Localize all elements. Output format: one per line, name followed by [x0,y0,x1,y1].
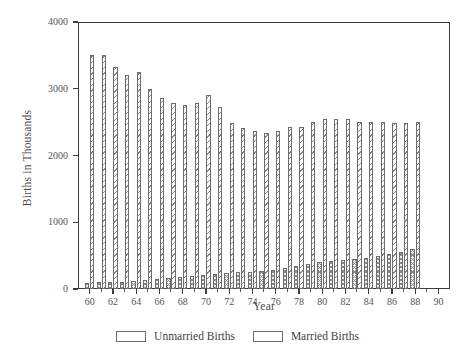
legend-swatch [116,331,146,342]
bar-unmarried-68 [178,277,182,289]
y-tick-mark [73,88,78,89]
x-tick-mark [182,289,183,294]
bar-unmarried-84 [364,258,368,289]
bar-married-86 [392,123,396,289]
bar-unmarried-78 [294,266,298,289]
x-tick-minor-mark [310,289,311,292]
bar-unmarried-79 [306,264,310,289]
x-axis-title: Year [78,300,450,312]
bar-married-62 [113,67,117,289]
x-tick-mark [136,289,137,294]
bar-married-75 [264,133,268,289]
x-tick-minor-mark [263,289,264,292]
bar-unmarried-61 [97,282,101,289]
x-tick-minor-mark [240,289,241,292]
bar-unmarried-62 [108,282,112,289]
bar-married-67 [171,103,175,289]
bar-unmarried-82 [341,260,345,289]
bar-married-72 [230,123,234,289]
x-tick-mark [322,289,323,294]
bar-married-88 [416,122,420,289]
bar-married-76 [276,131,280,289]
bar-married-79 [311,122,315,289]
x-tick-mark [415,289,416,294]
x-tick-mark [345,289,346,294]
bar-married-84 [369,122,373,289]
legend-label: Married Births [291,330,359,342]
x-tick-minor-mark [356,289,357,292]
x-tick-minor-mark [426,289,427,292]
bar-married-78 [299,127,303,289]
x-tick-minor-mark [217,289,218,292]
y-tick-mark [73,155,78,156]
bar-unmarried-71 [213,274,217,289]
bar-married-65 [148,89,152,289]
y-tick-label: 4000 [8,16,68,27]
bar-married-60 [90,55,94,289]
bar-married-71 [218,107,222,289]
bar-unmarried-81 [329,261,333,289]
bar-unmarried-60 [85,283,89,289]
bar-unmarried-76 [271,270,275,289]
bar-unmarried-88 [410,249,414,289]
x-tick-mark [252,289,253,294]
x-tick-minor-mark [170,289,171,292]
bar-married-77 [288,127,292,289]
bar-married-69 [195,103,199,289]
x-tick-mark [368,289,369,294]
x-tick-mark [438,289,439,294]
x-tick-minor-mark [147,289,148,292]
x-tick-minor-mark [333,289,334,292]
legend-item-married[interactable]: Married Births [253,330,359,342]
bar-married-66 [160,98,164,289]
x-tick-minor-mark [194,289,195,292]
bar-married-68 [183,105,187,289]
x-tick-mark [205,289,206,294]
legend-label: Unmarried Births [154,330,235,342]
bar-unmarried-72 [224,273,228,289]
chart-legend: Unmarried BirthsMarried Births [0,330,475,342]
y-tick-label: 3000 [8,83,68,94]
bar-unmarried-69 [190,276,194,289]
bar-unmarried-80 [317,262,321,289]
bar-unmarried-63 [120,282,124,289]
bar-unmarried-66 [155,279,159,289]
y-tick-label: 0 [8,283,68,294]
bar-married-63 [125,75,129,289]
bar-unmarried-64 [131,281,135,289]
x-tick-minor-mark [403,289,404,292]
bar-unmarried-83 [352,259,356,289]
bar-unmarried-87 [399,252,403,289]
bar-unmarried-75 [259,271,263,289]
bar-married-74 [253,131,257,289]
y-tick-mark [73,222,78,223]
x-tick-minor-mark [287,289,288,292]
y-tick-label: 2000 [8,150,68,161]
legend-swatch [253,331,283,342]
x-tick-mark [391,289,392,294]
x-tick-minor-mark [124,289,125,292]
bar-married-70 [206,95,210,289]
bar-married-87 [404,123,408,289]
bar-married-85 [381,122,385,289]
bar-unmarried-85 [376,256,380,289]
bar-unmarried-67 [166,278,170,289]
bar-married-61 [102,55,106,289]
bar-unmarried-74 [248,272,252,289]
bar-unmarried-70 [201,275,205,289]
bar-married-81 [334,119,338,289]
bar-married-64 [137,72,141,289]
y-tick-mark [73,288,78,289]
bar-unmarried-77 [283,268,287,289]
bar-married-80 [323,119,327,289]
x-tick-minor-mark [380,289,381,292]
y-tick-label: 1000 [8,216,68,227]
x-tick-mark [112,289,113,294]
x-tick-mark [89,289,90,294]
x-tick-mark [229,289,230,294]
y-tick-mark [73,21,78,22]
legend-item-unmarried[interactable]: Unmarried Births [116,330,235,342]
x-tick-mark [275,289,276,294]
x-tick-mark [298,289,299,294]
bar-married-83 [357,122,361,289]
